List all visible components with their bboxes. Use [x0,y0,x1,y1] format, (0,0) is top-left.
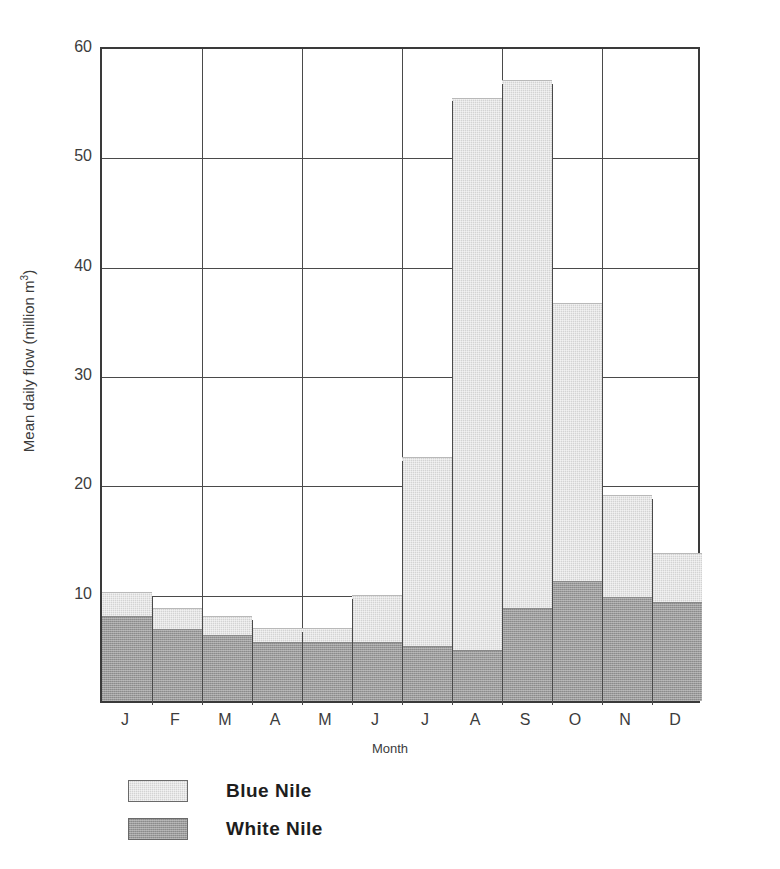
bar-segment-white-nile [302,642,352,701]
x-axis-tick-label-december: D [650,712,700,728]
bar-separator [502,84,503,705]
bar-separator [652,499,653,705]
bar-separator [202,612,203,705]
bar-january[interactable] [102,45,152,701]
bar-segment-white-nile [502,608,552,701]
bar-separator [402,461,403,705]
y-axis-title-close: ) [20,270,37,275]
y-axis-tick-labels: 102030405060 [40,0,92,869]
bar-segment-white-nile [352,642,402,701]
bar-segment-white-nile [252,642,302,701]
bar-separator [552,84,553,705]
bar-separator [352,599,353,705]
bar-separator [252,620,253,705]
bar-separator [302,632,303,705]
bar-february[interactable] [152,45,202,701]
x-axis-tick-label-february: F [150,712,200,728]
bar-november[interactable] [602,45,652,701]
legend-label-white-nile: White Nile [226,818,323,840]
legend-swatch-blue-nile [128,780,188,802]
bar-segment-blue-nile [152,608,202,629]
bar-september[interactable] [502,45,552,701]
bar-segment-white-nile [402,646,452,701]
x-axis-tick-label-october: O [550,712,600,728]
x-axis-tick-label-august: A [450,712,500,728]
bar-segment-blue-nile [102,592,152,616]
y-axis-title-text: Mean daily flow (million m [20,280,37,452]
y-axis-tick-label: 60 [46,39,92,55]
plot-area [100,47,700,703]
bar-segment-blue-nile [252,628,302,642]
bar-july[interactable] [402,45,452,701]
bar-segment-white-nile [602,597,652,701]
y-axis-title: Mean daily flow (million m3) [19,161,37,561]
bar-segment-blue-nile [602,495,652,597]
bar-segment-white-nile [202,635,252,701]
bar-segment-blue-nile [652,553,702,601]
chart-figure: 102030405060 Mean daily flow (million m3… [0,0,780,869]
y-axis-title-superscript: 3 [19,275,30,281]
y-axis-tick-label: 50 [46,148,92,164]
bar-segment-blue-nile [302,628,352,642]
legend-label-blue-nile: Blue Nile [226,780,312,802]
bar-segment-blue-nile [502,80,552,608]
x-axis-tick-label-july: J [400,712,450,728]
x-axis-tick-label-september: S [500,712,550,728]
bar-segment-white-nile [152,629,202,701]
bar-segment-blue-nile [402,457,452,646]
x-axis-tick-label-june: J [350,712,400,728]
legend-item-white-nile[interactable]: White Nile [128,810,323,848]
bar-segment-blue-nile [452,98,502,650]
x-axis-tick-label-march: M [200,712,250,728]
bar-may[interactable] [302,45,352,701]
y-axis-tick-label: 40 [46,258,92,274]
bar-april[interactable] [252,45,302,701]
bar-august[interactable] [452,45,502,701]
plot-inner [102,49,698,701]
bar-march[interactable] [202,45,252,701]
bar-segment-white-nile [102,616,152,701]
y-axis-tick-label: 10 [46,586,92,602]
bar-segment-white-nile [552,581,602,701]
bar-december[interactable] [652,45,702,701]
y-axis-tick-label: 20 [46,476,92,492]
x-axis-tick-label-november: N [600,712,650,728]
x-axis-tick-label-january: J [100,712,150,728]
legend-item-blue-nile[interactable]: Blue Nile [128,772,323,810]
bar-segment-blue-nile [352,595,402,642]
x-axis-title: Month [0,741,780,756]
x-axis-tick-label-may: M [300,712,350,728]
x-axis-tick-label-april: A [250,712,300,728]
bar-separator [452,101,453,705]
bar-october[interactable] [552,45,602,701]
bar-segment-white-nile [452,650,502,701]
bar-separator [152,596,153,705]
bar-june[interactable] [352,45,402,701]
bar-segment-blue-nile [202,616,252,636]
legend-swatch-white-nile [128,818,188,840]
y-axis-tick-label: 30 [46,367,92,383]
bar-separator [602,307,603,705]
chart-legend: Blue NileWhite Nile [128,772,323,848]
bar-segment-white-nile [652,602,702,701]
bar-segment-blue-nile [552,303,602,581]
